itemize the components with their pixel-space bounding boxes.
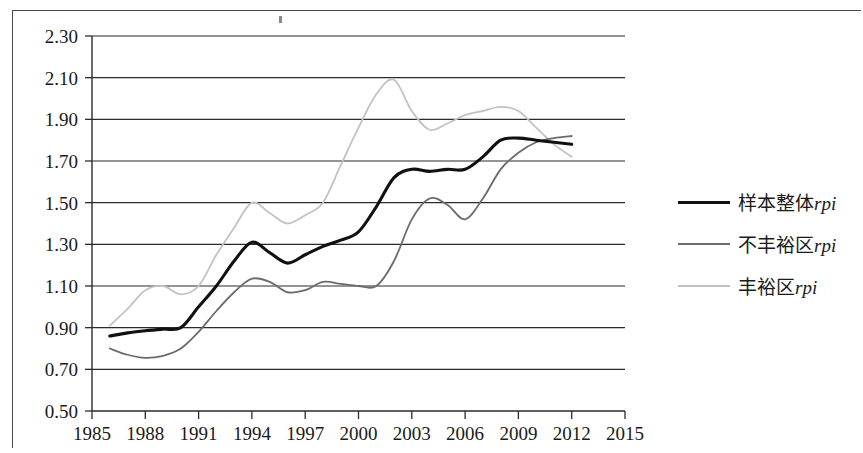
x-axis-tick-labels: 1985198819911994199720002003200620092012…: [73, 423, 644, 444]
legend-item-affluent: 丰裕区rpi: [678, 264, 858, 306]
series-line: [110, 136, 572, 358]
x-tick-label: 2000: [340, 423, 378, 444]
legend-swatch-nonaffluent: [678, 237, 730, 249]
y-tick-label: 0.70: [45, 359, 78, 380]
axis-lines-group: [92, 36, 625, 411]
legend-swatch-overall: [678, 195, 730, 207]
x-tick-label: 1985: [73, 423, 111, 444]
x-tick-label: 1988: [126, 423, 164, 444]
x-tick-label: 1994: [233, 423, 272, 444]
x-tick-label: 2015: [606, 423, 644, 444]
data-series-group: [110, 79, 572, 358]
chart-figure: 0.500.700.901.101.301.501.701.902.102.30…: [0, 0, 863, 453]
y-tick-label: 1.10: [45, 276, 78, 297]
legend-label-affluent: 丰裕区rpi: [738, 272, 817, 299]
legend-swatch-affluent: [678, 279, 730, 291]
gridlines-group: [92, 36, 625, 369]
y-tick-label: 0.90: [45, 318, 78, 339]
legend-label-nonaffluent: 不丰裕区rpi: [738, 230, 836, 257]
x-tick-label: 2003: [393, 423, 431, 444]
y-tick-label: 1.30: [45, 234, 78, 255]
x-tick-label: 2006: [446, 423, 484, 444]
x-tick-label: 1997: [286, 423, 324, 444]
y-tick-label: 1.90: [45, 109, 78, 130]
x-tick-label: 1991: [180, 423, 218, 444]
tickmarks-group: [85, 36, 625, 419]
y-tick-label: 2.30: [45, 26, 78, 47]
legend-label-overall: 样本整体rpi: [738, 188, 836, 215]
y-tick-label: 1.50: [45, 193, 78, 214]
legend-item-overall: 样本整体rpi: [678, 180, 858, 222]
x-tick-label: 2009: [499, 423, 537, 444]
y-tick-label: 2.10: [45, 68, 78, 89]
x-tick-label: 2012: [553, 423, 591, 444]
y-tick-label: 0.50: [45, 401, 78, 422]
y-axis-tick-labels: 0.500.700.901.101.301.501.701.902.102.30: [45, 26, 78, 422]
legend-item-nonaffluent: 不丰裕区rpi: [678, 222, 858, 264]
chart-legend: 样本整体rpi 不丰裕区rpi 丰裕区rpi: [678, 180, 858, 306]
y-tick-label: 1.70: [45, 151, 78, 172]
